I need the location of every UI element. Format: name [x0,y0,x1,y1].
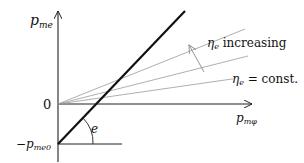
angle-label: e [91,122,98,136]
efficiency-line-low [58,79,232,104]
x-axis-label: pmφ [236,111,257,126]
efficiency-line-high [58,29,245,104]
y-axis-label: pme [30,12,53,30]
intercept-label: −pme0 [16,137,51,152]
efficiency-line-mid [58,56,248,104]
annotation-const: ηe = const. [232,72,298,87]
friction-line [58,11,185,144]
increasing-arrow [189,45,204,72]
annotation-increasing: ηe increasing [207,36,287,51]
origin-label: 0 [43,97,51,112]
diagram-canvas: pme pmφ 0 −pme0 e ηe increasing ηe = con… [0,0,304,163]
